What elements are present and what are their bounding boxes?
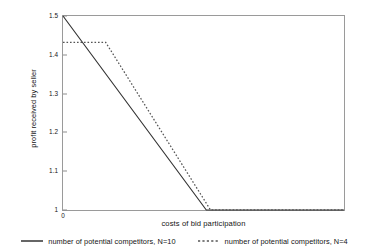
y-tick-label: 1.2 — [49, 129, 63, 135]
chart-figure: profit received by seller 1 1.1 1.2 1.3 … — [0, 0, 369, 250]
legend-label-n4: number of potential competitors, N=4 — [225, 237, 348, 246]
legend-label-n10: number of potential competitors, N=10 — [48, 237, 175, 246]
series-line-n10 — [63, 16, 344, 210]
legend-entry-n4: number of potential competitors, N=4 — [198, 237, 348, 246]
x-axis-title: costs of bid participation — [62, 219, 345, 228]
y-tick-label: 1.5 — [49, 13, 63, 19]
y-tick-label: 1.4 — [49, 52, 63, 58]
series-canvas — [63, 16, 344, 210]
chart-legend: number of potential competitors, N=10 nu… — [0, 234, 369, 248]
plot-area: 1 1.1 1.2 1.3 1.4 1.5 0 — [62, 15, 345, 211]
series-line-n4 — [63, 42, 344, 210]
legend-entry-n10: number of potential competitors, N=10 — [21, 237, 175, 246]
y-tick-label: 1.1 — [49, 168, 63, 174]
y-axis-title: profit received by seller — [29, 29, 38, 189]
legend-swatch-dotted-icon — [198, 238, 220, 244]
y-tick-label: 1.3 — [49, 90, 63, 96]
legend-swatch-solid-icon — [21, 238, 43, 244]
